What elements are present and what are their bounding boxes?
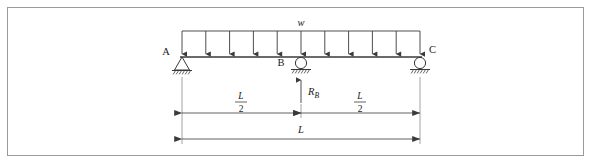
support-label-c: C — [429, 44, 436, 55]
dimension-label-numerator: L — [237, 91, 243, 101]
ground-hatching — [173, 71, 190, 75]
load-arrows — [182, 31, 420, 54]
reaction-rb-group: RB — [301, 80, 319, 103]
support-label-b: B — [277, 57, 284, 68]
dimension-left-half: L 2 — [182, 91, 301, 114]
ground-hatching — [411, 70, 428, 74]
dimension-label-numerator: L — [356, 91, 362, 101]
support-a-pin: A — [162, 46, 192, 74]
distributed-load-group: w — [182, 17, 420, 54]
beam-diagram-canvas: w A — [0, 0, 593, 165]
roller-circle-icon — [414, 57, 425, 68]
support-label-a: A — [162, 46, 170, 57]
reaction-label-rb: RB — [307, 86, 319, 100]
dimension-label-denominator: 2 — [358, 104, 363, 114]
dimension-total-span: L — [182, 124, 420, 139]
ground-hatching — [292, 70, 309, 74]
dimension-label-denominator: 2 — [239, 104, 244, 114]
pin-triangle-icon — [175, 57, 190, 70]
roller-circle-icon — [295, 57, 306, 68]
reaction-subscript: B — [314, 91, 319, 100]
support-c-roller: C — [410, 44, 436, 73]
dimension-label-total: L — [297, 124, 304, 135]
beam-diagram-figure: w A — [0, 0, 593, 165]
load-label-w: w — [297, 17, 304, 28]
support-b-roller: B — [277, 57, 311, 73]
